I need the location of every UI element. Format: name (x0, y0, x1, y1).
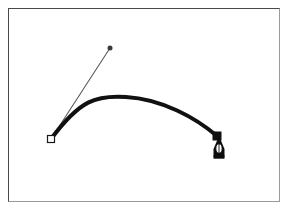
illustration-root: Bezier curve drawn with pen tool (0, 0, 291, 211)
start-anchor-hollow-square-icon[interactable] (48, 136, 55, 143)
bezier-curve-path[interactable] (51, 97, 217, 139)
bezier-figure (0, 0, 291, 211)
control-point-dot-icon[interactable] (108, 46, 113, 51)
